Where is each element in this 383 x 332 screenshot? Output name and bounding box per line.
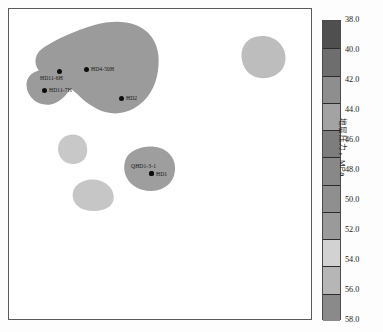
- colorbar-tick-label: 56.0: [345, 285, 359, 294]
- colorbar-tick-label: 54.0: [345, 255, 359, 264]
- pressure-contour-figure: HD11-6H HD4-50H HD11-7H HD2 QHD1-3-1 HD1…: [0, 0, 383, 332]
- region-west-small-patch: [58, 135, 87, 164]
- colorbar-band-separator: [323, 103, 340, 104]
- colorbar-band: [323, 76, 340, 103]
- well-dot-icon: [42, 88, 47, 93]
- colorbar-band: [323, 21, 340, 48]
- colorbar-band-separator: [323, 266, 340, 267]
- colorbar-band: [323, 294, 340, 321]
- region-northeast-isolated-patch: [241, 36, 285, 78]
- well-label: HD11-6H: [40, 75, 63, 81]
- colorbar-band-separator: [323, 76, 340, 77]
- colorbar-band: [323, 266, 340, 293]
- colorbar-band-separator: [323, 239, 340, 240]
- colorbar-band-separator: [323, 294, 340, 295]
- well-label: HD4-50H: [91, 66, 114, 72]
- well-label: HD2: [126, 95, 137, 101]
- contour-region-layer: [9, 9, 311, 319]
- colorbar-band-separator: [323, 48, 340, 49]
- colorbar-tick-label: 44.0: [345, 105, 359, 114]
- colorbar-tick-label: 42.0: [345, 75, 359, 84]
- well-label: QHD1-3-1: [131, 163, 156, 169]
- colorbar-tick-label: 38.0: [345, 15, 359, 24]
- colorbar-band: [323, 48, 340, 75]
- colorbar-tick-label: 40.0: [345, 45, 359, 54]
- colorbar-tick-label: 58.0: [345, 315, 359, 324]
- well-dot-icon: [57, 69, 62, 74]
- colorbar-band: [323, 239, 340, 266]
- well-label: HD1: [156, 171, 167, 177]
- region-southwest-small-patch: [73, 179, 114, 211]
- well-dot-icon: [84, 67, 89, 72]
- colorbar-tick-label: 52.0: [345, 225, 359, 234]
- colorbar-axis-title: 地层压力，MPa: [338, 118, 349, 218]
- well-dot-icon: [149, 171, 154, 176]
- well-label: HD11-7H: [49, 87, 72, 93]
- map-plot-area: HD11-6H HD4-50H HD11-7H HD2 QHD1-3-1 HD1: [8, 8, 312, 320]
- well-dot-icon: [119, 96, 124, 101]
